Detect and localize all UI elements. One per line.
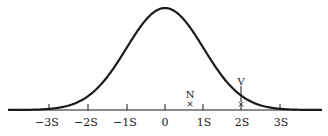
axis-ticks bbox=[49, 104, 280, 110]
n-marker-x-icon: × bbox=[186, 99, 194, 109]
normal-distribution-figure: −3S −2S −1S 0 1S 2S 3S N × V × bbox=[0, 0, 328, 136]
gaussian-curve bbox=[8, 8, 322, 110]
tick-label-minus-2s: −2S bbox=[74, 116, 98, 129]
tick-label-zero: 0 bbox=[162, 116, 169, 129]
v-marker-label: V bbox=[237, 76, 244, 87]
v-marker-x-icon: × bbox=[237, 99, 245, 109]
tick-label-3s: 3S bbox=[274, 116, 289, 129]
tick-label-2s: 2S bbox=[235, 116, 250, 129]
tick-label-minus-3s: −3S bbox=[35, 116, 59, 129]
tick-label-1s: 1S bbox=[197, 116, 212, 129]
tick-label-minus-1s: −1S bbox=[113, 116, 137, 129]
